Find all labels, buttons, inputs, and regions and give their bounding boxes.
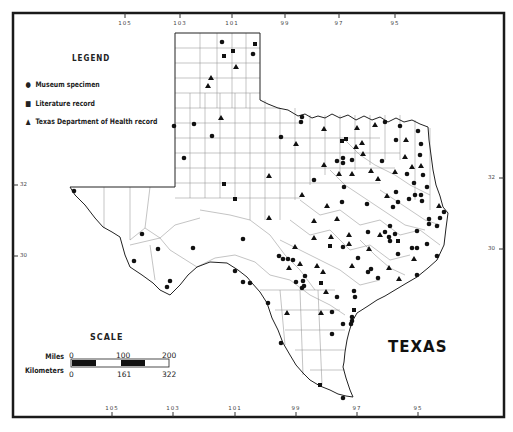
state-name-label: TEXAS — [388, 338, 447, 356]
right-lat-30: 30 — [488, 245, 495, 251]
bottom-lon-103: 103 — [166, 405, 180, 411]
scale-bar — [71, 359, 169, 367]
legend-title: LEGEND — [72, 54, 110, 63]
kilometers-label: Kilometers — [25, 366, 64, 375]
top-lon-101: 101 — [225, 20, 239, 26]
bottom-lon-95: 95 — [414, 405, 423, 411]
legend-item-health-record: ▲Texas Department of Health record — [24, 117, 157, 126]
triangle-icon: ▲ — [24, 117, 32, 126]
top-lon-97: 97 — [335, 20, 344, 26]
left-lat-32: 32 — [20, 181, 27, 187]
miles-200: 200 — [162, 351, 176, 360]
legend-item-literature-record: ■Literature record — [24, 99, 95, 108]
bottom-lon-105: 105 — [105, 405, 119, 411]
legend-label: Museum specimen — [35, 80, 99, 89]
legend-label: Literature record — [35, 99, 95, 108]
circle-icon: ● — [24, 80, 32, 89]
left-lat-30: 30 — [20, 252, 27, 258]
top-lon-95: 95 — [391, 20, 400, 26]
km-161: 161 — [117, 370, 131, 379]
km-0: 0 — [69, 370, 74, 379]
legend-item-museum-specimen: ●Museum specimen — [24, 80, 100, 89]
legend-label: Texas Department of Health record — [35, 117, 157, 126]
bottom-lon-97: 97 — [353, 405, 362, 411]
bottom-lon-101: 101 — [228, 405, 242, 411]
latitude-ticks — [13, 178, 504, 256]
top-lon-99: 99 — [281, 20, 290, 26]
literature-record-points — [222, 42, 400, 387]
miles-label: Miles — [45, 352, 64, 361]
map-frame — [0, 0, 513, 432]
right-lat-32: 32 — [488, 174, 495, 180]
health-record-points — [205, 64, 442, 315]
scale-title: SCALE — [90, 333, 123, 342]
bottom-lon-99: 99 — [292, 405, 301, 411]
top-lon-103: 103 — [173, 20, 187, 26]
miles-100: 100 — [116, 351, 130, 360]
miles-0: 0 — [69, 351, 74, 360]
top-lon-105: 105 — [118, 20, 132, 26]
map-border — [13, 13, 504, 417]
county-boundaries — [104, 33, 440, 385]
km-322: 322 — [162, 370, 176, 379]
square-icon: ■ — [24, 99, 32, 108]
